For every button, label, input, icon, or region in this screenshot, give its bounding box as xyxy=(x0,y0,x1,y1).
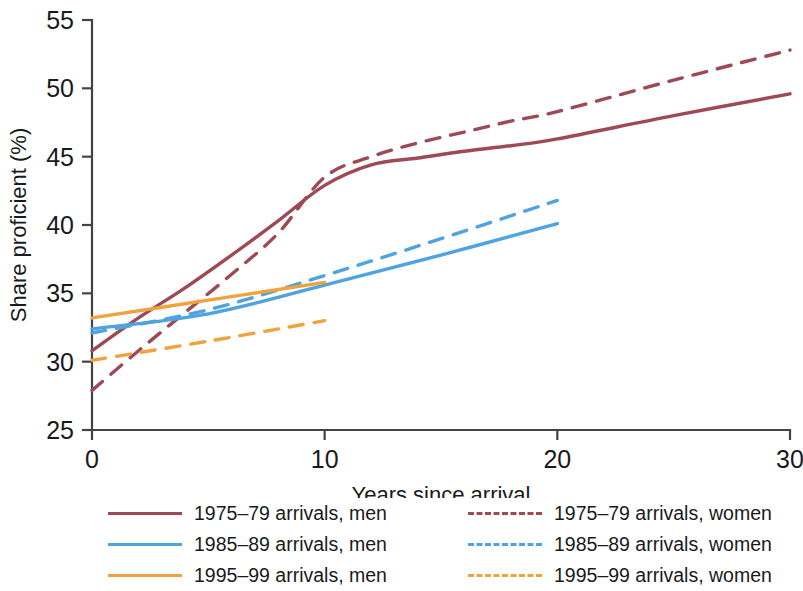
legend-label: 1985–89 arrivals, women xyxy=(554,535,772,555)
y-tick-label: 55 xyxy=(46,6,74,34)
chart-legend: 1975–79 arrivals, men 1975–79 arrivals, … xyxy=(0,498,803,591)
x-tick-label: 10 xyxy=(311,445,339,473)
legend-label: 1975–79 arrivals, women xyxy=(554,504,772,524)
chart-container: 253035404550550102030Years since arrival… xyxy=(0,0,803,591)
y-tick-label: 45 xyxy=(46,143,74,171)
legend-label: 1985–89 arrivals, men xyxy=(194,535,387,555)
axis-labels: 253035404550550102030Years since arrival… xyxy=(6,6,803,498)
axes xyxy=(82,20,790,440)
x-tick-label: 20 xyxy=(543,445,571,473)
y-tick-label: 25 xyxy=(46,416,74,444)
series-line-3 xyxy=(92,200,557,333)
y-tick-label: 50 xyxy=(46,74,74,102)
legend-item-1975-women: 1975–79 arrivals, women xyxy=(468,498,803,529)
legend-item-1985-men: 1985–89 arrivals, men xyxy=(108,529,468,560)
legend-label: 1975–79 arrivals, men xyxy=(194,504,387,524)
x-tick-label: 30 xyxy=(776,445,803,473)
series-line-1 xyxy=(92,50,790,390)
legend-swatch-blue-dashed xyxy=(468,543,542,546)
y-tick-label: 30 xyxy=(46,348,74,376)
x-tick-label: 0 xyxy=(85,445,99,473)
legend-swatch-orange-solid xyxy=(108,574,182,577)
x-axis-title: Years since arrival xyxy=(352,482,531,498)
y-axis-title: Share proficient (%) xyxy=(6,128,31,322)
legend-item-1985-women: 1985–89 arrivals, women xyxy=(468,529,803,560)
legend-swatch-red-dashed xyxy=(468,512,542,515)
line-chart-plot: 253035404550550102030Years since arrival… xyxy=(0,0,803,498)
y-tick-label: 40 xyxy=(46,211,74,239)
legend-item-1995-women: 1995–99 arrivals, women xyxy=(468,560,803,591)
legend-label: 1995–99 arrivals, women xyxy=(554,566,772,586)
legend-item-1975-men: 1975–79 arrivals, men xyxy=(108,498,468,529)
y-tick-label: 35 xyxy=(46,279,74,307)
legend-swatch-orange-dashed xyxy=(468,574,542,577)
legend-swatch-blue-solid xyxy=(108,543,182,546)
legend-item-1995-men: 1995–99 arrivals, men xyxy=(108,560,468,591)
legend-label: 1995–99 arrivals, men xyxy=(194,566,387,586)
series-lines xyxy=(92,50,790,390)
legend-swatch-red-solid xyxy=(108,512,182,515)
